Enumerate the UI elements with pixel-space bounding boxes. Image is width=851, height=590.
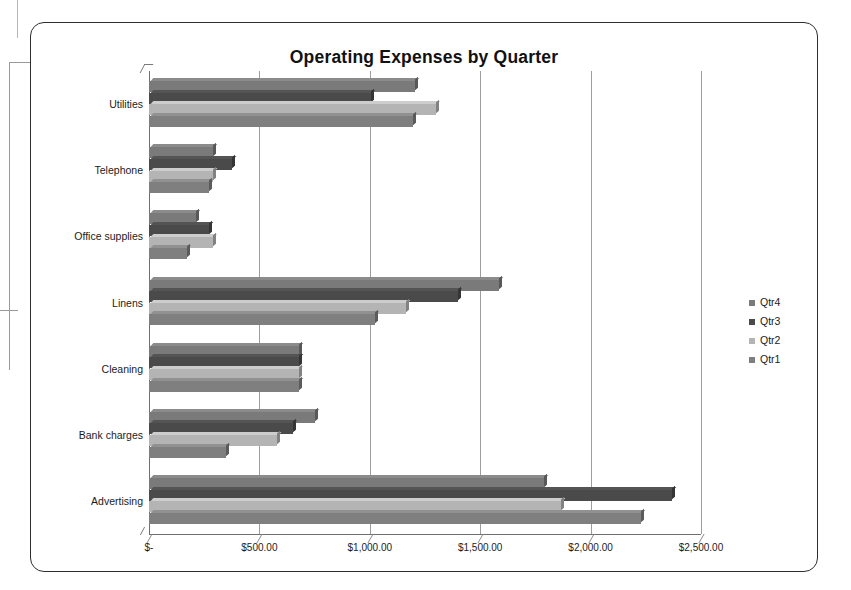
bar-row bbox=[149, 116, 701, 127]
bar-group bbox=[149, 71, 701, 137]
legend-item-qtr3[interactable]: Qtr3 bbox=[749, 312, 811, 331]
page-artifact-vertical-rule bbox=[9, 62, 10, 370]
bar-qtr1-advertising[interactable] bbox=[149, 513, 641, 524]
x-axis-tick-label: $2,000.00 bbox=[568, 542, 613, 553]
legend-label: Qtr4 bbox=[760, 297, 780, 308]
page-artifact-vertical-stub bbox=[17, 0, 18, 38]
bar-row bbox=[149, 513, 701, 524]
legend-label: Qtr3 bbox=[760, 316, 780, 327]
category-label-utilities: Utilities bbox=[109, 99, 143, 110]
bar-row bbox=[149, 435, 701, 446]
bar-qtr1-linens[interactable] bbox=[149, 314, 375, 325]
bar-qtr1-office-supplies[interactable] bbox=[149, 248, 187, 259]
bar-row bbox=[149, 213, 701, 224]
category-label-office-supplies: Office supplies bbox=[74, 231, 143, 242]
x-axis-tick-label: $2,500.00 bbox=[679, 542, 724, 553]
category-label-telephone: Telephone bbox=[95, 165, 143, 176]
bar-group bbox=[149, 468, 701, 534]
x-axis-labels: $-$500.00$1,000.00$1,500.00$2,000.00$2,5… bbox=[149, 542, 709, 562]
legend-item-qtr2[interactable]: Qtr2 bbox=[749, 331, 811, 350]
gridline bbox=[701, 71, 702, 534]
x-axis-tick-label: $500.00 bbox=[241, 542, 277, 553]
axis-floor bbox=[149, 534, 701, 535]
chart-container: Operating Expenses by Quarter Advertisin… bbox=[30, 22, 818, 572]
legend-swatch-icon bbox=[749, 300, 755, 306]
bar-row bbox=[149, 159, 701, 170]
bar-qtr1-bank-charges[interactable] bbox=[149, 447, 226, 458]
bar-row bbox=[149, 171, 701, 182]
bar-qtr1-cleaning[interactable] bbox=[149, 381, 299, 392]
category-label-bank-charges: Bank charges bbox=[79, 430, 143, 441]
legend-label: Qtr2 bbox=[760, 335, 780, 346]
legend-item-qtr1[interactable]: Qtr1 bbox=[749, 350, 811, 369]
category-label-advertising: Advertising bbox=[91, 496, 143, 507]
legend-swatch-icon bbox=[749, 338, 755, 344]
bar-group bbox=[149, 402, 701, 468]
bar-qtr1-telephone[interactable] bbox=[149, 182, 209, 193]
bar-row bbox=[149, 237, 701, 248]
legend-swatch-icon bbox=[749, 319, 755, 325]
bar-row bbox=[149, 225, 701, 236]
x-axis-tick-label: $1,000.00 bbox=[348, 542, 393, 553]
category-label-cleaning: Cleaning bbox=[102, 364, 143, 375]
category-label-linens: Linens bbox=[112, 298, 143, 309]
plot-area bbox=[149, 71, 701, 534]
x-axis-tick-label: $1,500.00 bbox=[458, 542, 503, 553]
bar-group bbox=[149, 269, 701, 335]
bar-group bbox=[149, 336, 701, 402]
bar-qtr1-utilities[interactable] bbox=[149, 116, 413, 127]
bar-group bbox=[149, 137, 701, 203]
legend-label: Qtr1 bbox=[760, 354, 780, 365]
bar-row bbox=[149, 248, 701, 259]
chart-legend: Qtr4Qtr3Qtr2Qtr1 bbox=[749, 293, 811, 369]
bar-group bbox=[149, 203, 701, 269]
bar-row bbox=[149, 182, 701, 193]
category-axis-labels: AdvertisingBank chargesCleaningLinensOff… bbox=[31, 71, 143, 534]
legend-swatch-icon bbox=[749, 357, 755, 363]
bar-row bbox=[149, 314, 701, 325]
legend-item-qtr4[interactable]: Qtr4 bbox=[749, 293, 811, 312]
page-artifact-horizontal-rule-bottom bbox=[0, 310, 18, 311]
bar-row bbox=[149, 447, 701, 458]
x-axis-tick-label: $- bbox=[145, 542, 154, 553]
bar-row bbox=[149, 381, 701, 392]
